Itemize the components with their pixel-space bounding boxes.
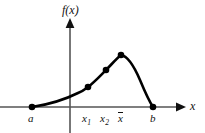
- x-axis-label: x: [190, 100, 195, 112]
- point-marker-b: [150, 104, 157, 111]
- tick-label-x2-subscript: 2: [105, 118, 109, 127]
- tick-label-b: b: [150, 113, 156, 124]
- y-axis-arrow-icon: [66, 18, 75, 28]
- point-marker-xbar: [118, 52, 125, 59]
- point-marker-x2: [103, 67, 110, 74]
- tick-label-xbar-base: x: [118, 113, 123, 124]
- y-axis-label: f(x): [62, 4, 79, 16]
- tick-label-x1-subscript: 1: [87, 118, 91, 127]
- function-graph-figure: f(x) x a x1 x2 x b: [0, 0, 205, 133]
- tick-label-x1: x1: [82, 113, 91, 124]
- point-marker-a: [29, 104, 36, 111]
- point-marker-x1: [85, 84, 92, 91]
- function-curve: [32, 55, 153, 107]
- tick-label-xbar: x: [118, 113, 123, 124]
- tick-label-a: a: [28, 113, 34, 124]
- tick-label-x2: x2: [100, 113, 109, 124]
- x-axis-arrow-icon: [176, 103, 186, 112]
